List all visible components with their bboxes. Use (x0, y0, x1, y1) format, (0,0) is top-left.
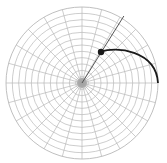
grid-spoke (82, 45, 148, 83)
grid-spoke (82, 83, 120, 149)
grid-spoke (16, 83, 82, 121)
marker-point (98, 49, 104, 55)
grid-spoke (82, 29, 136, 83)
polar-grid-canvas (0, 0, 167, 163)
grid-spoke (82, 83, 148, 121)
grid-spoke (16, 45, 82, 83)
grid-spoke (44, 17, 82, 83)
polar-diagram (0, 0, 167, 163)
grid-spoke (28, 83, 82, 137)
grid-spoke (44, 83, 82, 149)
grid-spoke (28, 29, 82, 83)
grid-spoke (82, 83, 136, 137)
